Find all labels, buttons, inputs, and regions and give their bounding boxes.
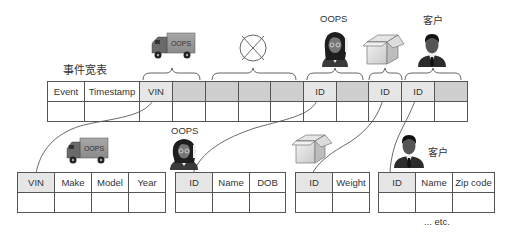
cell <box>250 193 286 213</box>
brace-customer <box>405 68 461 80</box>
truck-small-icon: OOPS <box>67 138 108 164</box>
brace-package <box>369 68 402 80</box>
main-event-table: Event Timestamp VIN ID ID ID <box>47 81 468 122</box>
person-man-small-icon <box>394 135 424 168</box>
cell <box>337 102 369 122</box>
cell <box>213 193 250 213</box>
brace-person <box>307 68 363 80</box>
main-table-title: 事件宽表 <box>63 61 107 77</box>
person-header-dob: DOB <box>250 173 286 193</box>
customer-data-row <box>379 193 495 213</box>
vehicle-table: VIN Make Model Year <box>17 172 166 213</box>
customer-header-id: ID <box>379 173 416 193</box>
vehicle-header-make: Make <box>55 173 92 193</box>
person-header-id: ID <box>176 173 213 193</box>
cell <box>206 102 239 122</box>
box-icon <box>363 35 404 64</box>
crossed-circle-icon <box>240 35 266 61</box>
header-unused-3 <box>239 82 271 102</box>
cell <box>48 102 85 122</box>
package-header-row: ID Weight <box>296 173 370 193</box>
person-data-row <box>176 193 286 213</box>
cell <box>296 193 333 213</box>
vehicle-header-model: Model <box>92 173 129 193</box>
header-customer-extra <box>435 82 468 102</box>
brace-vin <box>143 68 200 80</box>
header-event: Event <box>48 82 85 102</box>
cell <box>333 193 370 213</box>
package-table: ID Weight <box>295 172 370 213</box>
customer-table: ID Name Zip code <box>378 172 495 213</box>
header-unused-2 <box>206 82 239 102</box>
customer-header-name: Name <box>416 173 453 193</box>
cell <box>369 102 402 122</box>
box-small-icon <box>292 135 332 163</box>
header-unused-4 <box>271 82 304 102</box>
person-table: ID Name DOB <box>175 172 286 213</box>
cell <box>176 193 213 213</box>
main-table-header-row: Event Timestamp VIN ID ID ID <box>48 82 468 102</box>
package-data-row <box>296 193 370 213</box>
vehicle-header-year: Year <box>129 173 166 193</box>
cell <box>18 193 55 213</box>
cell <box>173 102 206 122</box>
cell <box>140 102 173 122</box>
cell <box>129 193 166 213</box>
person-header-row: ID Name DOB <box>176 173 286 193</box>
group-label-oops: OOPS <box>320 13 347 24</box>
header-person-extra <box>337 82 369 102</box>
person-table-label: OOPS <box>171 125 198 136</box>
header-customer-id: ID <box>402 82 435 102</box>
package-header-id: ID <box>296 173 333 193</box>
etc-note: ... etc. <box>424 216 450 227</box>
header-unused-1 <box>173 82 206 102</box>
vehicle-header-row: VIN Make Model Year <box>18 173 166 193</box>
cell <box>239 102 271 122</box>
cell <box>85 102 140 122</box>
group-label-customer: 客户 <box>423 12 443 27</box>
header-vin: VIN <box>140 82 173 102</box>
header-timestamp: Timestamp <box>85 82 140 102</box>
brace-unused <box>212 68 296 80</box>
cell <box>271 102 304 122</box>
cell <box>435 102 468 122</box>
customer-header-zip: Zip code <box>453 173 495 193</box>
customer-table-label: 客户 <box>428 144 448 159</box>
header-person-id: ID <box>304 82 337 102</box>
person-man-icon <box>418 34 446 67</box>
main-table-data-row <box>48 102 468 122</box>
cell <box>402 102 435 122</box>
person-woman-icon <box>322 32 348 67</box>
truck-small-label: OOPS <box>84 145 105 152</box>
truck-label: OOPS <box>171 40 192 47</box>
person-woman-small-icon <box>170 139 198 170</box>
vehicle-header-vin: VIN <box>18 173 55 193</box>
customer-header-row: ID Name Zip code <box>379 173 495 193</box>
package-header-weight: Weight <box>333 173 370 193</box>
cell <box>92 193 129 213</box>
cell <box>379 193 416 213</box>
header-package-id: ID <box>369 82 402 102</box>
cell <box>416 193 453 213</box>
person-header-name: Name <box>213 173 250 193</box>
truck-icon: OOPS <box>152 33 195 59</box>
cell <box>453 193 495 213</box>
cell <box>304 102 337 122</box>
vehicle-data-row <box>18 193 166 213</box>
cell <box>55 193 92 213</box>
